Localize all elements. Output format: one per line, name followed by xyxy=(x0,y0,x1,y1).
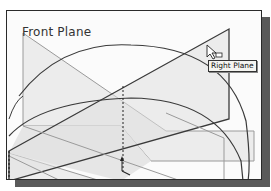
front-plane-label: Front Plane xyxy=(22,25,91,39)
cursor-select-plane-icon xyxy=(205,44,223,60)
tooltip-right-plane: Right Plane xyxy=(208,60,257,72)
graphics-viewport[interactable]: Front Plane Right Plane xyxy=(6,10,262,180)
